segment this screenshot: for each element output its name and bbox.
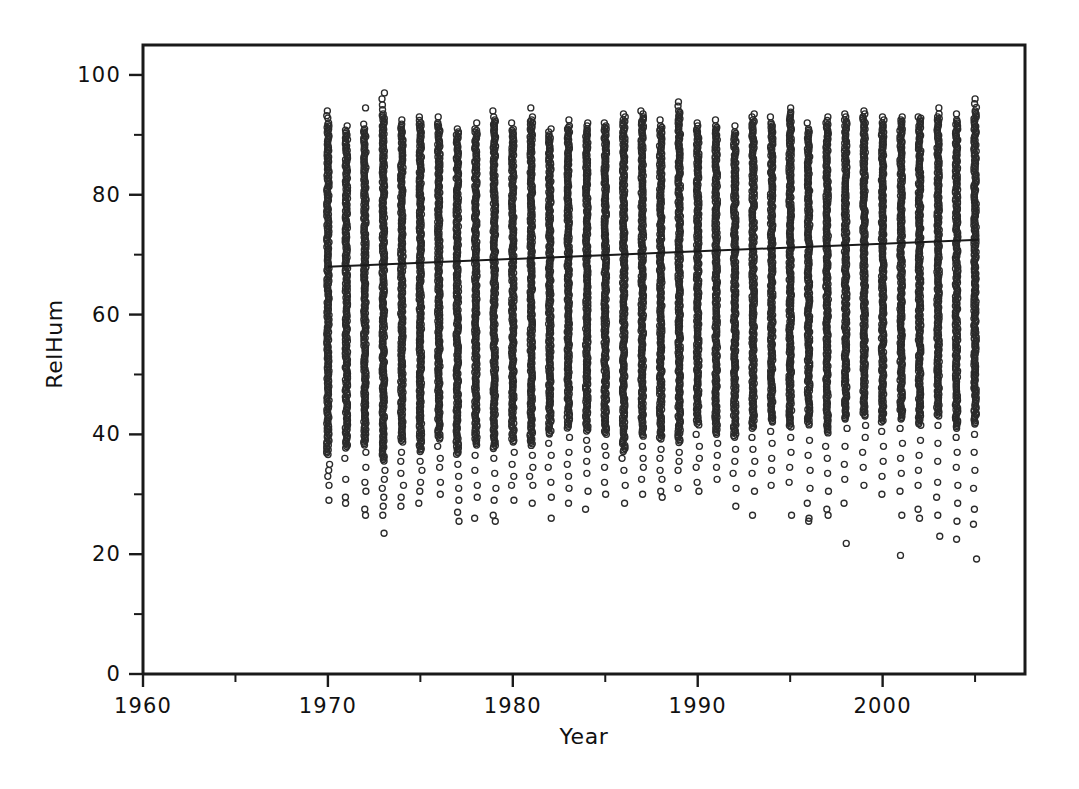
x-axis-title: Year <box>559 724 609 749</box>
chart-container: 19601970198019902000 020406080100 Year R… <box>0 0 1079 789</box>
data-column <box>416 114 425 506</box>
x-tick-label: 2000 <box>853 694 911 718</box>
data-column <box>675 99 683 491</box>
y-tick-label: 80 <box>92 183 121 207</box>
x-tick-label: 1960 <box>114 694 172 718</box>
data-column <box>435 114 444 497</box>
x-tick-label: 1980 <box>484 694 542 718</box>
y-tick-label: 60 <box>92 303 121 327</box>
data-column <box>324 108 333 503</box>
y-tick-label: 0 <box>106 662 121 686</box>
scatter-plot: 19601970198019902000 020406080100 Year R… <box>0 0 1079 789</box>
y-axis-title: RelHum <box>42 299 67 388</box>
y-tick-label: 20 <box>92 542 121 566</box>
y-tick-label: 40 <box>92 422 121 446</box>
data-column <box>712 117 721 482</box>
y-tick-label: 100 <box>77 63 121 87</box>
x-tick-label: 1970 <box>299 694 357 718</box>
x-tick-label: 1990 <box>669 694 727 718</box>
